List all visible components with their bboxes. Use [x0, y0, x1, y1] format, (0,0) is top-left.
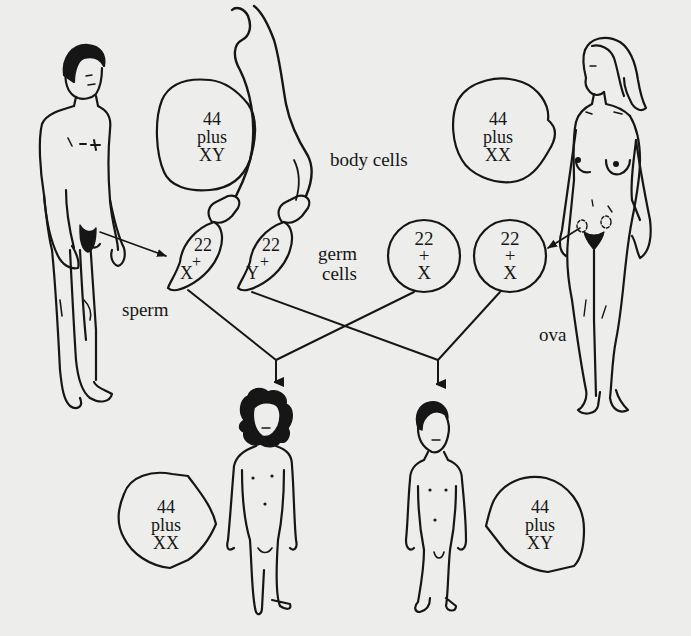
boy-cell-plus: plus	[512, 516, 568, 534]
ovum-2-cell-text: 22 + X	[490, 230, 530, 281]
female-cell-sex: XX	[470, 146, 526, 164]
girl-cell-autosomes: 44	[138, 498, 194, 516]
ovum-1-cell-text: 22 + X	[404, 230, 444, 281]
germ-cells-label-line1: germ	[318, 244, 357, 263]
female-cell-plus: plus	[470, 128, 526, 146]
male-cell-autosomes: 44	[184, 110, 240, 128]
male-body-cell-text: 44 plus XY	[184, 110, 240, 164]
sperm-label: sperm	[122, 300, 168, 319]
male-cell-sex: XY	[184, 146, 240, 164]
female-to-ovum-arrow	[548, 228, 580, 248]
sperm-y-autosomes: 22	[262, 236, 280, 254]
girl-cell-plus: plus	[138, 516, 194, 534]
male-cell-plus: plus	[184, 128, 240, 146]
boy-child-figure	[406, 402, 466, 612]
ovum2-to-boy-line	[438, 292, 500, 360]
female-body-cell-text: 44 plus XX	[470, 110, 526, 164]
female-cell-autosomes: 44	[470, 110, 526, 128]
boy-cell-autosomes: 44	[512, 498, 568, 516]
girl-cell-sex: XX	[138, 534, 194, 552]
adult-male-figure	[40, 45, 125, 408]
boy-cell-sex: XY	[512, 534, 568, 552]
sperm-x-autosomes: 22	[194, 236, 212, 254]
girl-body-cell-text: 44 plus XX	[138, 498, 194, 552]
diagram-drawing	[0, 0, 691, 636]
male-to-sperm-arrow	[100, 232, 166, 256]
sperm-x-sex: X	[180, 264, 193, 282]
body-cells-label: body cells	[330, 150, 408, 169]
sex-determination-diagram: body cells germ cells sperm ova 44 plus …	[0, 0, 691, 636]
sperm-y-plus: +	[260, 254, 269, 270]
ovum-2-sex: X	[490, 264, 530, 281]
girl-child-figure	[227, 389, 296, 615]
sperm-y-sex: Y	[246, 264, 259, 282]
ovum-1-sex: X	[404, 264, 444, 281]
boy-body-cell-text: 44 plus XY	[512, 498, 568, 552]
germ-cells-label-line2: cells	[322, 264, 357, 283]
sperm-x-to-girl-line	[188, 290, 276, 360]
ova-label: ova	[539, 325, 566, 344]
adult-female-figure	[560, 38, 651, 414]
sperm-x-plus: +	[192, 254, 201, 270]
ovum1-to-girl-line	[276, 292, 414, 360]
